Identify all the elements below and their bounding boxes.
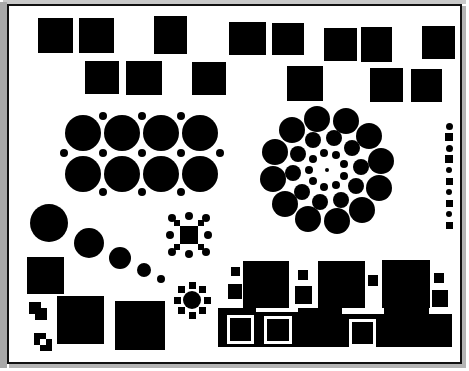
square-shape-cluster	[228, 284, 242, 299]
bottom-skyline-group	[9, 6, 460, 362]
square-shape-cluster	[384, 308, 429, 347]
square-shape-cluster	[382, 260, 430, 308]
square-shape-inner	[230, 318, 251, 341]
square-shape-cluster	[429, 314, 452, 347]
square-shape-cluster	[368, 275, 378, 286]
shape-pattern-figure	[0, 0, 469, 371]
square-shape-cluster	[298, 270, 308, 280]
frame-shadow-right	[462, 6, 466, 366]
square-shape-inner	[352, 322, 373, 344]
square-shape-cluster	[318, 261, 365, 308]
square-shape-cluster	[295, 286, 312, 304]
image-canvas	[9, 6, 460, 362]
frame-shadow-left	[0, 2, 7, 368]
square-shape-cluster	[298, 308, 342, 347]
image-frame	[7, 4, 462, 364]
square-shape-cluster	[432, 290, 448, 307]
square-shape-cluster	[243, 261, 289, 308]
square-shape-inner	[267, 319, 289, 341]
frame-shadow-bottom	[9, 364, 466, 368]
square-shape-cluster	[231, 267, 240, 276]
square-shape-cluster	[434, 273, 444, 283]
